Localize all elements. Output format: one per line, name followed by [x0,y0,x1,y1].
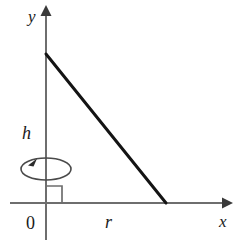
x-axis [10,198,233,209]
figure-canvas: y x 0 h r [0,0,249,248]
origin-label: 0 [26,213,35,233]
arrow-right-icon [222,198,233,209]
arrow-up-icon [41,5,52,16]
y-axis [41,5,52,240]
height-label: h [22,123,31,143]
hypotenuse-line [46,54,166,203]
x-axis-label: x [218,212,227,231]
geometry-diagram: y x 0 h r [0,0,249,248]
y-axis-label: y [26,7,36,26]
radius-label: r [105,212,113,232]
right-angle-marker-icon [46,186,62,203]
